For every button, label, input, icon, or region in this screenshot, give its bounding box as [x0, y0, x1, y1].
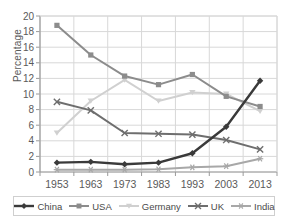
- marker-square: [54, 23, 59, 28]
- y-tick-label: 2: [28, 151, 34, 162]
- marker-square: [88, 52, 93, 57]
- legend-marker-star-icon: [230, 200, 252, 212]
- marker-square: [257, 104, 262, 109]
- y-tick-label: 6: [28, 120, 34, 131]
- marker-square: [77, 204, 82, 209]
- x-tick-label: 1973: [113, 178, 137, 190]
- marker-square: [122, 73, 127, 78]
- legend-label: India: [254, 201, 275, 212]
- y-tick-label: 10: [23, 89, 35, 100]
- y-tick-label: 8: [28, 104, 34, 115]
- y-tick-label: 14: [23, 57, 35, 68]
- legend-label: China: [37, 201, 62, 212]
- x-tick-label: 2013: [248, 178, 272, 190]
- legend-marker-square-icon: [68, 200, 90, 212]
- y-tick-label: 12: [23, 73, 35, 84]
- x-tick-label: 1993: [181, 178, 205, 190]
- x-tick-label: 1963: [79, 178, 103, 190]
- legend-label: USA: [92, 201, 112, 212]
- y-tick-label: 4: [28, 135, 34, 146]
- chart-canvas: 0246810121416182019531963197319831993200…: [0, 0, 290, 223]
- legend-marker-triangle-icon: [118, 200, 140, 212]
- legend-label: UK: [211, 201, 224, 212]
- y-tick-label: 20: [23, 11, 35, 22]
- x-tick-label: 2003: [215, 178, 239, 190]
- legend-marker-diamond-icon: [13, 200, 35, 212]
- marker-square: [156, 82, 161, 87]
- line-chart: Percentage 02468101214161820195319631973…: [0, 0, 290, 223]
- legend-item-china[interactable]: China: [13, 200, 62, 212]
- legend-item-germany[interactable]: Germany: [118, 200, 181, 212]
- legend-item-india[interactable]: India: [230, 200, 275, 212]
- marker-diamond: [21, 203, 27, 209]
- marker-square: [190, 72, 195, 77]
- x-tick-label: 1953: [45, 178, 69, 190]
- x-tick-label: 1983: [147, 178, 171, 190]
- y-tick-label: 18: [23, 26, 35, 37]
- marker-square: [224, 94, 229, 99]
- legend-label: Germany: [142, 201, 181, 212]
- y-tick-label: 0: [28, 167, 34, 178]
- chart-legend: ChinaUSAGermanyUKIndia: [13, 196, 275, 216]
- legend-item-usa[interactable]: USA: [68, 200, 112, 212]
- y-tick-label: 16: [23, 42, 35, 53]
- legend-item-uk[interactable]: UK: [187, 200, 224, 212]
- legend-marker-x-icon: [187, 200, 209, 212]
